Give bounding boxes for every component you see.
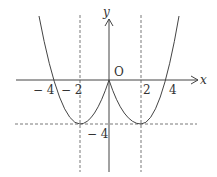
tick-label-y-neg4: − 4 — [87, 127, 109, 141]
tick-label-pos4: 4 — [169, 83, 177, 97]
curve-left — [39, 16, 109, 124]
tick-label-pos2: 2 — [143, 83, 151, 97]
y-axis-label: y — [102, 5, 110, 19]
origin-label: O — [114, 65, 124, 79]
x-axis-label: x — [200, 73, 207, 87]
tick-label-neg4: − 4 — [33, 83, 55, 97]
function-graph: y x O − 4 − 2 2 4 − 4 — [0, 0, 217, 177]
tick-label-neg2: − 2 — [61, 83, 83, 97]
